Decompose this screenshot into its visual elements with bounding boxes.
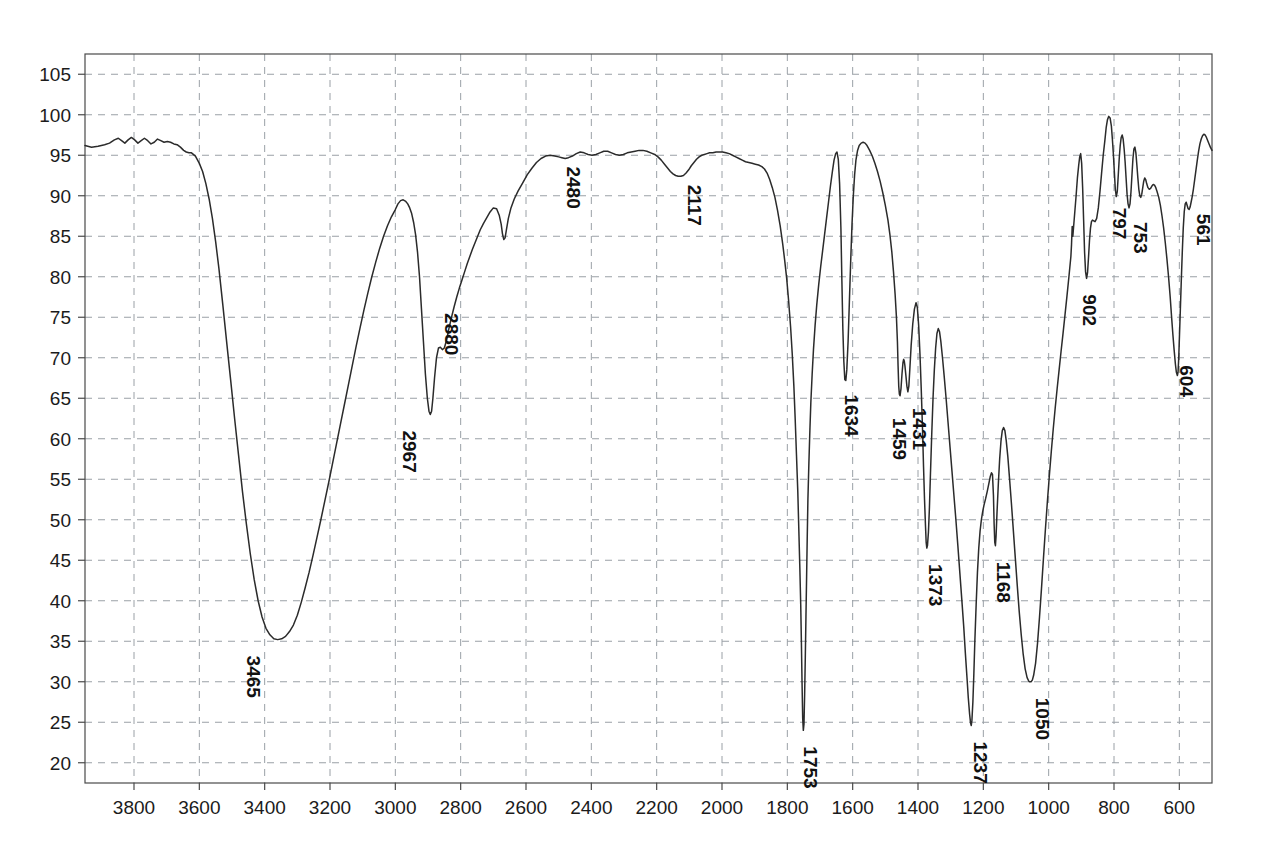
x-axis-tick-label: 3400 xyxy=(244,797,286,818)
y-axis-tick-label: 100 xyxy=(39,105,71,126)
peak-label-2117: 2117 xyxy=(684,185,705,226)
x-axis-tick-label: 2600 xyxy=(505,797,547,818)
y-axis-tick-label: 40 xyxy=(50,591,71,612)
peak-label-1753: 1753 xyxy=(800,746,821,788)
peak-label-797: 797 xyxy=(1109,208,1130,240)
x-axis-tick-label: 1200 xyxy=(962,797,1004,818)
x-axis-tick-label: 2000 xyxy=(701,797,743,818)
y-axis-tick-label: 50 xyxy=(50,510,71,531)
x-axis-tick-label: 3800 xyxy=(113,797,155,818)
y-axis-tick-label: 105 xyxy=(39,64,71,85)
x-axis-tick-label: 800 xyxy=(1098,797,1130,818)
y-axis-tick-label: 70 xyxy=(50,348,71,369)
ir-spectrum-page: 20253035404550556065707580859095100105 3… xyxy=(0,0,1264,849)
peak-label-2880: 2880 xyxy=(441,313,462,355)
y-axis-tick-label: 95 xyxy=(50,145,71,166)
peak-label-902: 902 xyxy=(1079,294,1100,326)
peak-label-3465: 3465 xyxy=(243,656,264,699)
peak-label-1168: 1168 xyxy=(993,562,1014,603)
x-axis-tick-labels: 3800360034003200300028002600240022002000… xyxy=(113,797,1195,818)
peak-label-1431: 1431 xyxy=(909,408,930,451)
y-axis-tick-label: 20 xyxy=(50,753,71,774)
peak-label-2967: 2967 xyxy=(399,430,420,472)
peak-label-604: 604 xyxy=(1176,365,1197,397)
x-axis-tick-label: 3000 xyxy=(374,797,416,818)
x-axis-tick-label: 3200 xyxy=(309,797,351,818)
y-axis-tick-label: 60 xyxy=(50,429,71,450)
peak-label-753: 753 xyxy=(1130,222,1151,254)
x-axis-tick-label: 2400 xyxy=(570,797,612,818)
x-axis-tick-label: 1400 xyxy=(897,797,939,818)
x-axis-tick-label: 1000 xyxy=(1028,797,1070,818)
peak-label-1373: 1373 xyxy=(925,564,946,606)
x-axis-tick-label: 2200 xyxy=(636,797,678,818)
chart-background xyxy=(0,0,1264,849)
x-axis-tick-label: 1600 xyxy=(832,797,874,818)
y-axis-tick-label: 85 xyxy=(50,226,71,247)
y-axis-tick-label: 30 xyxy=(50,672,71,693)
peak-label-1459: 1459 xyxy=(889,418,910,460)
ir-spectrum-chart: 20253035404550556065707580859095100105 3… xyxy=(0,0,1264,849)
peak-label-1237: 1237 xyxy=(970,741,991,783)
y-axis-tick-label: 80 xyxy=(50,267,71,288)
peak-label-1634: 1634 xyxy=(841,394,862,437)
y-axis-tick-label: 90 xyxy=(50,186,71,207)
y-axis-tick-label: 55 xyxy=(50,469,71,490)
y-axis-tick-label: 75 xyxy=(50,307,71,328)
peak-label-1050: 1050 xyxy=(1032,698,1053,740)
y-axis-tick-label: 25 xyxy=(50,712,71,733)
y-axis-tick-label: 45 xyxy=(50,550,71,571)
peak-label-2480: 2480 xyxy=(563,166,584,208)
y-axis-tick-label: 35 xyxy=(50,631,71,652)
x-axis-tick-label: 600 xyxy=(1163,797,1195,818)
peak-label-561: 561 xyxy=(1193,214,1214,246)
x-axis-tick-label: 3600 xyxy=(178,797,220,818)
x-axis-tick-label: 2800 xyxy=(440,797,482,818)
y-axis-tick-label: 65 xyxy=(50,388,71,409)
x-axis-tick-label: 1800 xyxy=(766,797,808,818)
